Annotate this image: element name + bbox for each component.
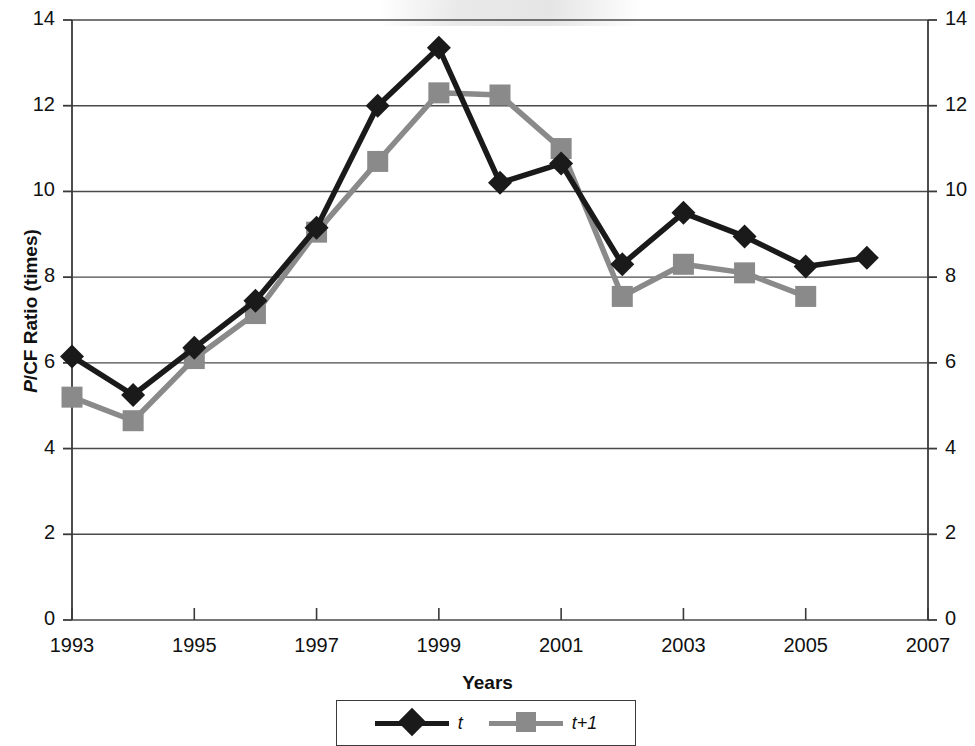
data-point-square	[490, 85, 511, 106]
y-axis-tick-label-left: 14	[0, 7, 55, 30]
x-axis-tick-label: 2001	[516, 634, 606, 657]
data-point-square	[123, 410, 144, 431]
data-point-diamond	[855, 246, 879, 270]
y-axis-tick-label-right: 10	[945, 178, 975, 201]
data-point-diamond	[733, 224, 757, 248]
y-axis-tick-label-right: 12	[945, 93, 975, 116]
y-axis-tick-label-left: 12	[0, 93, 55, 116]
legend-label-t-plus-1: t+1	[572, 713, 598, 734]
y-axis-tick-label-right: 8	[945, 264, 975, 287]
y-axis-tick-label-left: 4	[0, 436, 55, 459]
x-axis-tick-label: 1999	[394, 634, 484, 657]
x-axis-tick-label: 2007	[883, 634, 973, 657]
gridlines	[72, 20, 928, 620]
legend-label-t: t	[458, 713, 463, 734]
data-point-square	[734, 262, 755, 283]
data-point-square	[612, 286, 633, 307]
axis-lines	[72, 20, 928, 620]
series-t-plus-1	[62, 82, 817, 431]
data-point-diamond	[794, 254, 818, 278]
data-point-square	[673, 254, 694, 275]
data-point-square	[367, 151, 388, 172]
x-axis-tick-label: 1993	[27, 634, 117, 657]
data-point-square	[62, 387, 83, 408]
x-axis-tick-label: 2005	[761, 634, 851, 657]
y-axis-tick-label-left: 10	[0, 178, 55, 201]
legend-marker-square-icon	[489, 712, 563, 734]
y-axis-title: P/CF Ratio (times)	[20, 201, 42, 421]
x-axis-title: Years	[0, 672, 975, 694]
x-axis-tick-label: 2003	[638, 634, 728, 657]
y-axis-tick-label-right: 14	[945, 7, 975, 30]
tick-marks	[63, 20, 937, 620]
y-axis-tick-label-left: 0	[0, 607, 55, 630]
x-axis-tick-label: 1997	[272, 634, 362, 657]
series-line	[72, 93, 806, 421]
data-point-square	[428, 82, 449, 103]
legend-item-t-plus-1[interactable]: t+1	[489, 712, 598, 734]
y-axis-tick-label-right: 4	[945, 436, 975, 459]
y-axis-title-italic: P	[20, 380, 41, 393]
chart-legend: t t+1	[336, 700, 636, 746]
data-series-layer	[60, 36, 879, 431]
y-axis-tick-label-left: 2	[0, 521, 55, 544]
legend-marker-diamond-icon	[375, 712, 449, 734]
y-axis-tick-label-right: 0	[945, 607, 975, 630]
y-axis-tick-label-right: 6	[945, 350, 975, 373]
y-axis-title-rest: /CF Ratio (times)	[20, 229, 41, 380]
legend-item-t[interactable]: t	[375, 712, 463, 734]
y-axis-tick-label-right: 2	[945, 521, 975, 544]
x-axis-tick-label: 1995	[149, 634, 239, 657]
data-point-square	[795, 286, 816, 307]
